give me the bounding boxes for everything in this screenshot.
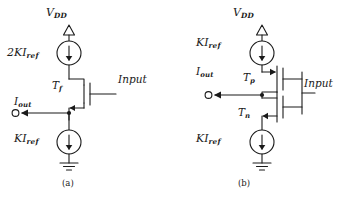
b-top-current-source — [250, 41, 274, 72]
a-top-current-source — [57, 41, 81, 79]
a-caption: (a) — [62, 178, 74, 188]
b-nmos-label: Tn — [238, 107, 250, 118]
b-vdd-symbol — [257, 25, 268, 41]
b-caption: (b) — [238, 178, 250, 188]
b-transistor-tn — [262, 92, 302, 122]
a-input-label: Input — [118, 74, 147, 85]
b-input-label: Input — [304, 78, 333, 89]
a-transistor-tf — [69, 79, 116, 111]
b-transistor-tp — [262, 66, 302, 98]
b-ground-symbol — [253, 163, 271, 170]
a-top-current-source-label: 2KIref — [7, 47, 39, 58]
figure-canvas: VDD 2KIref Tf Input Iout KIref (a) VDD K… — [0, 0, 348, 201]
a-transistor-label: Tf — [52, 80, 62, 91]
a-output-current-label: Iout — [14, 96, 32, 107]
a-supply-label: VDD — [46, 7, 67, 18]
b-output-current-label: Iout — [196, 66, 214, 77]
a-ground-symbol — [60, 163, 78, 170]
a-bottom-current-source-label: KIref — [14, 133, 39, 144]
b-bottom-current-source — [250, 116, 274, 163]
b-bottom-current-source-label: KIref — [196, 133, 221, 144]
schematic-drawing — [0, 0, 348, 201]
b-pmos-label: Tp — [243, 72, 255, 83]
a-bottom-current-source — [57, 113, 81, 163]
b-supply-label: VDD — [233, 7, 254, 18]
a-output-branch — [12, 108, 71, 120]
a-vdd-symbol — [64, 25, 75, 41]
b-top-current-source-label: KIref — [196, 37, 221, 48]
b-output-branch — [205, 92, 264, 99]
